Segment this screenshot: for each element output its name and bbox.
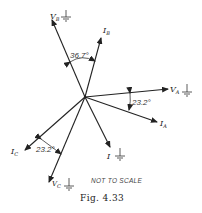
angle-label-36-7: 36.7°	[70, 51, 90, 60]
angle-label-23-2-a: 23.2°	[131, 98, 152, 107]
phasor-ia: IA	[85, 97, 167, 129]
phasor-ib: IB	[85, 26, 110, 97]
i-label: I	[106, 152, 111, 161]
ground-icon	[61, 10, 71, 21]
ground-icon	[182, 84, 192, 96]
angle-vb-ib: 36.7°	[70, 51, 95, 62]
vb-label: VB	[50, 12, 60, 22]
ib-label: IB	[102, 26, 110, 36]
ground-icon	[115, 148, 125, 160]
ic-label: IC	[10, 147, 18, 157]
origin-point	[84, 96, 86, 98]
angle-va-ia: 23.2°	[129, 93, 152, 110]
angle-ic-vc: 23.2°	[35, 139, 61, 154]
va-label: VA	[170, 85, 180, 95]
phasor-i: I	[85, 97, 125, 161]
angle-label-23-2-c: 23.2°	[35, 145, 56, 154]
vc-arrow	[49, 97, 85, 182]
phasor-diagram: VB IB 36.7° VA IA 23.2°	[0, 0, 202, 213]
ground-icon	[64, 178, 74, 190]
phasor-vc: VC	[49, 97, 85, 190]
ic-arrow	[25, 97, 85, 150]
phasor-va: VA	[85, 84, 192, 97]
va-arrow	[85, 89, 168, 97]
vc-label: VC	[52, 180, 61, 189]
not-to-scale-note: NOT TO SCALE	[91, 177, 143, 184]
figure-caption: Fig. 4.33	[80, 193, 124, 203]
ia-label: IA	[159, 119, 167, 129]
ib-arrow	[85, 38, 101, 97]
